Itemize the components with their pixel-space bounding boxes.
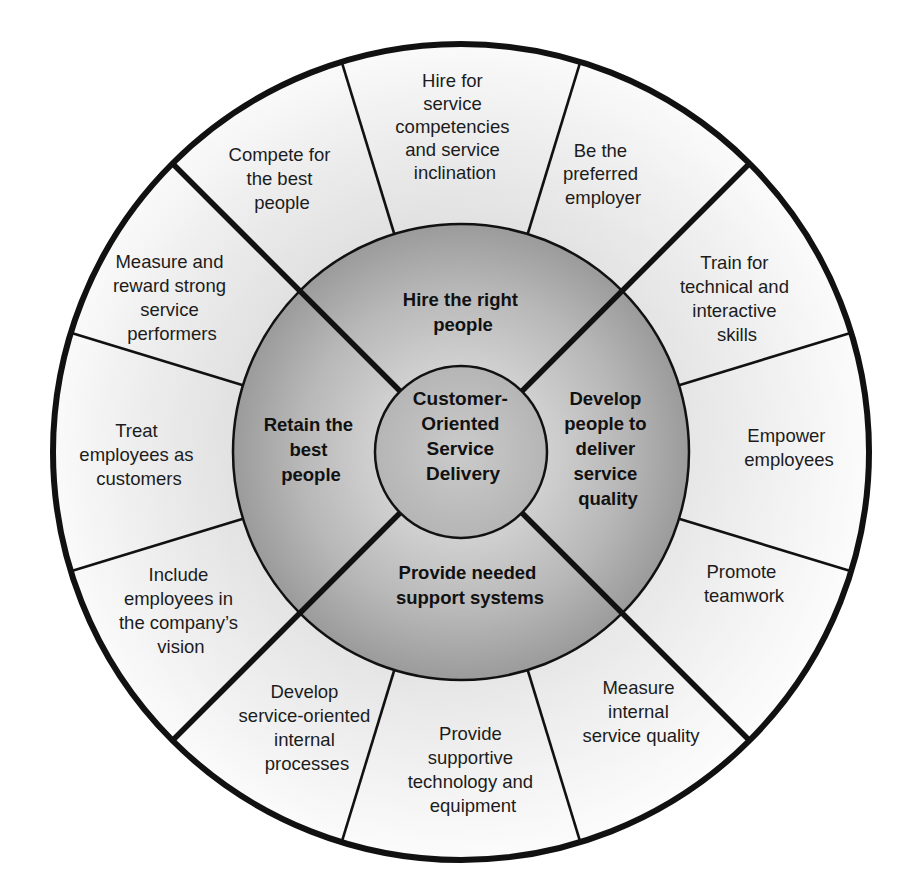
segment-label-line: Promote <box>706 561 776 582</box>
core-label-line: Delivery <box>426 463 500 484</box>
segment-label-line: technical and <box>680 276 789 297</box>
segment-label-line: employees in <box>124 588 233 609</box>
segment-label-line: service <box>140 299 199 320</box>
ring-label-line: service <box>574 463 638 484</box>
segment-label-line: service quality <box>582 725 700 746</box>
segment-label-line: the company’s <box>119 612 238 633</box>
segment-label-line: employees as <box>79 444 193 465</box>
segment-label-line: internal <box>274 729 335 750</box>
segment-label-line: employer <box>565 187 641 208</box>
segment-label-line: Provide <box>439 723 502 744</box>
segment-label-line: preferred <box>563 163 638 184</box>
core-label-line: Oriented <box>421 413 499 434</box>
segment-label-line: service <box>423 93 482 114</box>
segment-label-line: Treat <box>115 420 158 441</box>
segment-label-line: competencies <box>395 116 509 137</box>
core-label-line: Service <box>427 438 495 459</box>
ring-label-line: Develop <box>569 388 641 409</box>
ring-label-line: Provide needed <box>399 562 537 583</box>
ring-label-line: people <box>433 314 493 335</box>
service-delivery-wheel: Customer- Oriented Service Delivery Hire… <box>0 0 919 895</box>
segment-label-line: Be the <box>574 140 628 161</box>
segment-label-line: technology and <box>408 771 534 792</box>
segment-label-line: customers <box>96 468 181 489</box>
segment-label-line: Compete for <box>229 144 331 165</box>
segment-label-line: skills <box>717 324 757 345</box>
segment-label-line: Empower <box>747 425 825 446</box>
segment-label-line: inclination <box>414 162 496 183</box>
segment-label-line: supportive <box>428 747 513 768</box>
segment-label-line: and service <box>405 139 500 160</box>
segment-label-line: employees <box>744 449 833 470</box>
core-label-line: Customer- <box>413 388 508 409</box>
segment-label-line: equipment <box>430 795 516 816</box>
segment-label-line: Hire for <box>422 70 483 91</box>
segment-label-line: Measure <box>602 677 674 698</box>
ring-label-line: deliver <box>576 438 636 459</box>
segment-label-line: Train for <box>700 252 768 273</box>
segment-label-preferred-employer: Be the preferred employer <box>563 140 643 208</box>
segment-label-line: teamwork <box>704 585 785 606</box>
ring-label-line: Retain the <box>264 414 353 435</box>
segment-label-line: processes <box>265 753 349 774</box>
ring-label-line: support systems <box>396 587 544 608</box>
segment-label-line: reward strong <box>113 275 226 296</box>
ring-label-line: people <box>281 464 341 485</box>
segment-label-line: service-oriented <box>239 705 371 726</box>
segment-label-line: performers <box>127 323 216 344</box>
wheel-diagram: Customer- Oriented Service Delivery Hire… <box>0 0 919 895</box>
segment-label-line: vision <box>157 636 204 657</box>
segment-label-line: internal <box>608 701 669 722</box>
ring-label-line: Hire the right <box>403 289 518 310</box>
segment-label-line: people <box>254 192 310 213</box>
segment-label-line: Develop <box>270 681 338 702</box>
segment-label-line: Measure and <box>115 251 223 272</box>
ring-label-line: people to <box>564 413 646 434</box>
ring-label-line: best <box>289 439 327 460</box>
ring-label-line: quality <box>578 488 638 509</box>
segment-label-line: Include <box>149 564 209 585</box>
segment-label-line: the best <box>247 168 313 189</box>
segment-label-line: interactive <box>692 300 776 321</box>
